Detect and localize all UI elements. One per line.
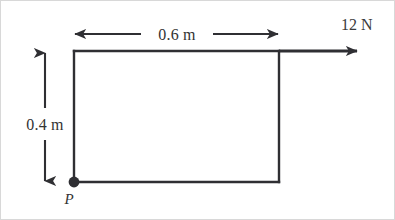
physics-diagram-figure: 0.6 m 0.4 m 12 N P — [0, 0, 395, 220]
pivot-point-group: P — [63, 177, 79, 207]
width-dimension-label: 0.6 m — [158, 26, 196, 43]
applied-force-group: 12 N — [279, 16, 373, 51]
width-dimension-group: 0.6 m — [75, 26, 278, 43]
force-label: 12 N — [341, 16, 373, 33]
diagram-canvas: 0.6 m 0.4 m 12 N P — [1, 1, 395, 220]
lamina-rectangle — [74, 51, 279, 182]
height-dimension-label: 0.4 m — [26, 116, 64, 133]
pivot-dot — [69, 177, 80, 188]
height-dimension-group: 0.4 m — [26, 53, 64, 181]
pivot-label: P — [63, 191, 73, 207]
